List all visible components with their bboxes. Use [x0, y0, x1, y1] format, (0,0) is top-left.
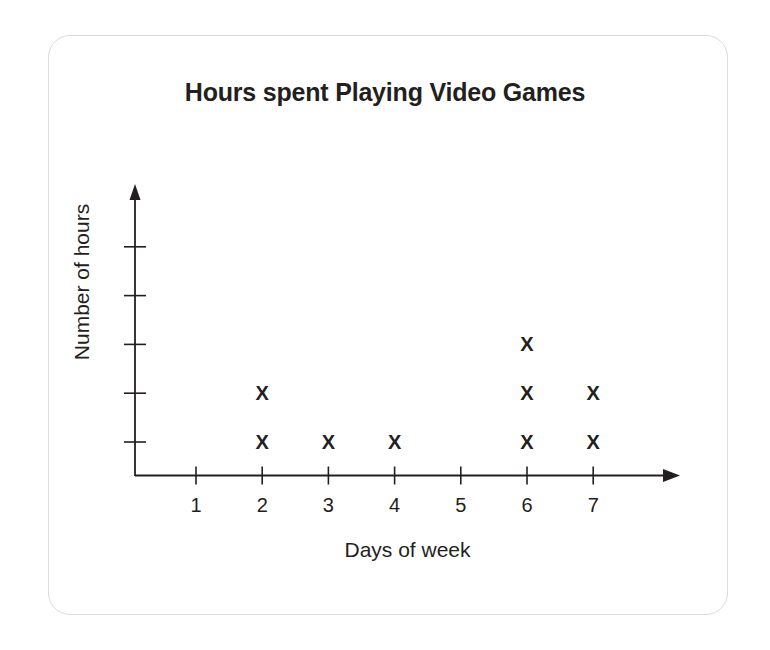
data-point-marker: X	[247, 432, 277, 452]
data-point-marker: X	[247, 383, 277, 403]
data-point-marker: X	[380, 432, 410, 452]
x-axis-arrow-icon	[663, 469, 680, 482]
x-axis-tick-label: 2	[242, 494, 282, 517]
x-axis-tick-label: 6	[507, 494, 547, 517]
x-axis-label: Days of week	[135, 538, 680, 562]
data-point-marker: X	[578, 383, 608, 403]
y-axis-label: Number of hours	[70, 182, 94, 382]
x-axis-tick-label: 3	[308, 494, 348, 517]
data-point-marker: X	[578, 432, 608, 452]
x-axis-tick-label: 7	[573, 494, 613, 517]
x-axis-tick-label: 5	[441, 494, 481, 517]
page-canvas: Hours spent Playing Video Games Number o…	[0, 0, 770, 650]
y-axis-arrow-icon	[130, 184, 141, 200]
x-axis-tick-label: 1	[176, 494, 216, 517]
data-point-marker: X	[512, 334, 542, 354]
x-axis-tick-label: 4	[375, 494, 415, 517]
data-point-marker: X	[313, 432, 343, 452]
data-point-marker: X	[512, 432, 542, 452]
data-point-marker: X	[512, 383, 542, 403]
